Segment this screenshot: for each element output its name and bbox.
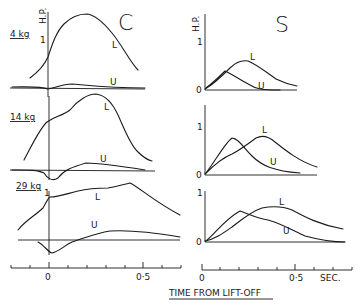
x-axis-title: TIME FROM LIFT-OFF xyxy=(168,288,261,298)
series-label-u: U xyxy=(110,77,117,87)
x-tick-0-5: 0·5 xyxy=(136,272,150,282)
x-tick-0: 0 xyxy=(199,273,205,283)
figure-canvas: C 4 kg H.P. 1 L U 14 kg L U 29 kg 1 L U xyxy=(0,0,363,308)
panel-s-14kg: 1 0 L U xyxy=(196,105,317,180)
x-unit-label: SEC. xyxy=(320,273,341,283)
series-label-l: L xyxy=(95,192,100,202)
load-label-4kg: 4 kg xyxy=(10,29,30,39)
x-axis-s: 0 0·5 SEC. xyxy=(199,264,352,283)
hp-axis-label: H.P. xyxy=(38,8,48,24)
series-label-l: L xyxy=(250,52,255,62)
series-label-u: U xyxy=(283,226,290,236)
series-label-u: U xyxy=(100,154,107,164)
hp-axis-label: H.P. xyxy=(191,16,201,32)
series-label-u: U xyxy=(258,81,265,91)
y-tick-0: 0 xyxy=(196,85,202,95)
x-tick-0-5: 0·5 xyxy=(289,273,303,283)
load-label-14kg: 14 kg xyxy=(10,112,35,122)
load-label-29kg: 29 kg xyxy=(16,181,41,191)
panel-c-29kg: 29 kg 1 L U xyxy=(16,181,180,255)
y-tick-0: 0 xyxy=(196,170,202,180)
y-tick-0: 0 xyxy=(196,237,202,247)
series-label-l: L xyxy=(104,102,109,112)
series-label-l: L xyxy=(279,197,284,207)
column-c-label: C xyxy=(118,10,133,35)
x-axis-c: 0 0·5 xyxy=(11,262,181,282)
y-tick-1: 1 xyxy=(197,37,203,47)
y-tick-1: 1 xyxy=(40,35,46,45)
column-s-label: S xyxy=(275,12,289,37)
y-tick-1: 1 xyxy=(197,188,203,198)
series-label-l: L xyxy=(112,40,117,50)
series-label-u: U xyxy=(91,220,98,230)
panel-c-14kg: 14 kg L U xyxy=(10,94,155,180)
series-label-l: L xyxy=(262,125,267,135)
panel-s-29kg: 1 0 L U xyxy=(196,188,345,247)
y-tick-1: 1 xyxy=(197,122,203,132)
series-label-u: U xyxy=(270,157,277,167)
x-tick-0: 0 xyxy=(45,272,51,282)
